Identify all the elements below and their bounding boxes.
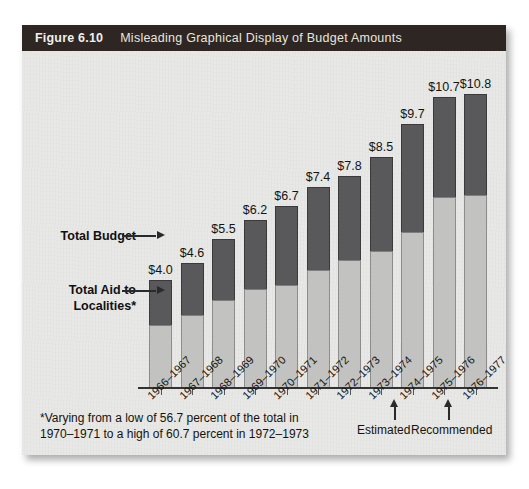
bar-value-label: $9.7 (400, 107, 424, 121)
bar-value-label: $7.8 (337, 159, 361, 173)
chart-plot-area: $4.0$4.6$5.5$6.2$6.7$7.4$7.8$8.5$9.7$10.… (22, 51, 506, 455)
bar-1974-1975[interactable]: $9.7 (401, 124, 424, 389)
recommended-label: Recommended (411, 423, 492, 437)
bar-value-label: $10.8 (460, 77, 491, 91)
estimated-label: Estimated (357, 423, 410, 437)
bar-segment-budget-remainder (307, 187, 330, 270)
bar-segment-budget-remainder (244, 220, 267, 290)
figure-number: Figure 6.10 (35, 31, 103, 45)
bar-value-label: $7.4 (306, 170, 330, 184)
callout-total-budget-arrow (122, 231, 164, 240)
bar-value-label: $8.5 (369, 140, 393, 154)
bar-segment-budget-remainder (212, 239, 235, 300)
bar-1975-1976[interactable]: $10.7 (433, 97, 456, 389)
figure-footnote: *Varying from a low of 56.7 percent of t… (40, 410, 309, 443)
bar-segment-budget-remainder (370, 157, 393, 251)
bar-value-label: $4.0 (148, 263, 172, 277)
bar-segment-budget-remainder (275, 206, 298, 285)
bar-1976-1977[interactable]: $10.8 (464, 94, 487, 389)
bar-value-label: $5.5 (211, 222, 235, 236)
bar-segment-budget-remainder (433, 97, 456, 197)
bar-value-label: $4.6 (180, 246, 204, 260)
bar-segment-budget-remainder (338, 176, 361, 260)
bar-segment-budget-remainder (464, 94, 487, 195)
bar-value-label: $6.2 (243, 203, 267, 217)
bar-segment-budget-remainder (401, 124, 424, 232)
figure-panel: Figure 6.10 Misleading Graphical Display… (22, 25, 506, 455)
bar-value-label: $6.7 (274, 189, 298, 203)
callout-total-aid-line2: Localities* (32, 299, 136, 314)
bar-segment-budget-remainder (181, 263, 204, 315)
callout-total-aid-arrow (122, 286, 164, 295)
callout-total-aid-line1: Total Aid to (32, 283, 136, 298)
callout-total-budget: Total Budget (32, 229, 136, 244)
figure-title-bar: Figure 6.10 Misleading Graphical Display… (22, 25, 506, 51)
bar-value-label: $10.7 (428, 80, 459, 94)
figure-title: Misleading Graphical Display of Budget A… (120, 31, 402, 45)
